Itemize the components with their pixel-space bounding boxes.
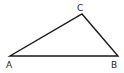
- triangle-diagram: C A B: [0, 0, 124, 73]
- vertex-label-a: A: [6, 60, 13, 70]
- vertex-label-b: B: [111, 60, 117, 70]
- triangle-abc: [10, 14, 118, 56]
- vertex-label-c: C: [77, 3, 83, 13]
